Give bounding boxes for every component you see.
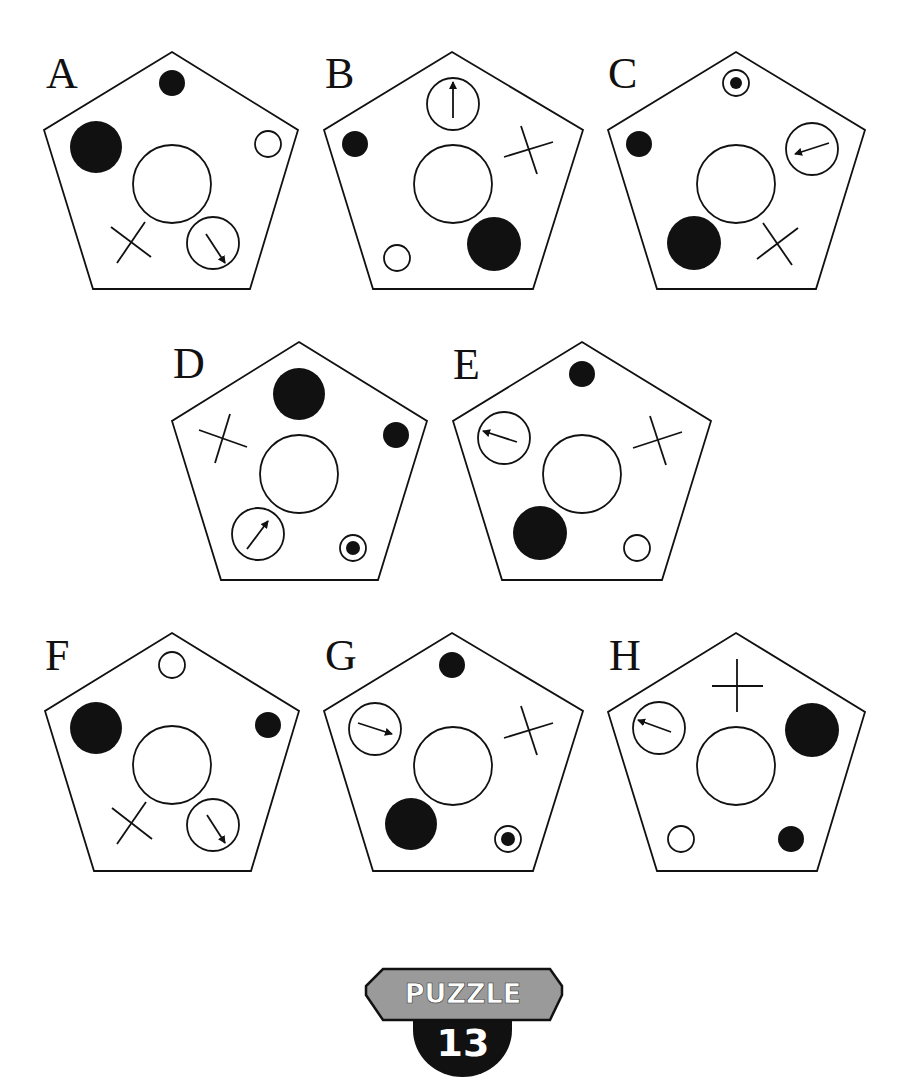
black-circle-large-icon xyxy=(785,703,839,757)
panel-label: F xyxy=(45,631,69,680)
panel-b[interactable]: B xyxy=(324,49,583,289)
white-circle-small-icon xyxy=(668,826,694,852)
black-circle-large-icon xyxy=(385,798,437,850)
badge-title: PUZZLE xyxy=(405,978,522,1009)
black-circle-large-icon xyxy=(667,216,721,270)
center-circle-icon xyxy=(133,145,211,223)
center-circle-icon xyxy=(543,435,621,513)
black-circle-large-icon xyxy=(467,217,521,271)
panel-d[interactable]: D xyxy=(172,339,427,580)
center-circle-icon xyxy=(697,145,775,223)
black-circle-large-icon xyxy=(513,506,567,560)
panel-g[interactable]: G xyxy=(324,631,583,871)
black-circle-small-icon xyxy=(159,70,185,96)
panel-label: G xyxy=(325,631,357,680)
center-circle-icon xyxy=(260,435,338,513)
arrow-circle-icon xyxy=(349,703,401,755)
black-circle-small-icon xyxy=(342,131,368,157)
panel-a[interactable]: A xyxy=(44,49,298,289)
panel-label: A xyxy=(46,49,78,98)
white-circle-small-icon xyxy=(255,131,281,157)
puzzle-canvas: ABCDEFGH PUZZLE 13 xyxy=(0,0,899,1080)
panel-label: H xyxy=(609,631,641,680)
black-circle-small-icon xyxy=(439,652,465,678)
panel-e[interactable]: E xyxy=(453,340,711,580)
black-circle-small-icon xyxy=(626,131,652,157)
pentagon-panels: ABCDEFGH xyxy=(44,49,865,871)
black-circle-large-icon xyxy=(70,702,122,754)
white-circle-small-icon xyxy=(159,652,185,678)
center-circle-icon xyxy=(697,727,775,805)
arrow-circle-icon xyxy=(187,217,239,269)
panel-c[interactable]: C xyxy=(608,49,865,289)
white-circle-small-icon xyxy=(624,535,650,561)
black-circle-small-icon xyxy=(255,712,281,738)
white-circle-small-icon xyxy=(384,245,410,271)
bullseye-icon xyxy=(495,826,521,852)
bullseye-icon xyxy=(340,535,366,561)
bullseye-icon xyxy=(723,70,749,96)
arrow-circle-icon xyxy=(633,702,685,754)
black-circle-small-icon xyxy=(383,422,409,448)
panel-label: C xyxy=(608,49,637,98)
center-circle-icon xyxy=(133,726,211,804)
arrow-circle-icon xyxy=(786,123,838,175)
black-circle-large-icon xyxy=(70,121,122,173)
arrow-circle-icon xyxy=(187,799,239,851)
center-circle-icon xyxy=(414,145,492,223)
puzzle-badge: PUZZLE 13 xyxy=(366,969,562,1077)
badge-number: 13 xyxy=(437,1021,490,1065)
panel-label: E xyxy=(453,340,480,389)
arrow-circle-icon xyxy=(427,78,479,130)
arrow-circle-icon xyxy=(232,508,284,560)
black-circle-large-icon xyxy=(273,368,325,420)
black-circle-small-icon xyxy=(569,361,595,387)
panel-label: B xyxy=(325,49,354,98)
panel-label: D xyxy=(173,339,205,388)
panel-h[interactable]: H xyxy=(608,631,865,871)
panel-f[interactable]: F xyxy=(45,631,299,871)
black-circle-small-icon xyxy=(778,826,804,852)
center-circle-icon xyxy=(414,727,492,805)
arrow-circle-icon xyxy=(478,412,530,464)
